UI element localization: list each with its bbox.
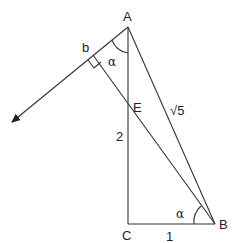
label-angle-b: α: [176, 207, 184, 221]
label-b-foot: b: [82, 40, 89, 55]
label-ec-length: 2: [116, 129, 123, 144]
label-angle-a: α: [108, 55, 116, 69]
arrow-line-through-b: [12, 27, 128, 122]
label-ab-length: √5: [170, 103, 184, 118]
segment-bb: [93, 55, 215, 224]
label-c: C: [122, 228, 131, 243]
label-cb-length: 1: [166, 229, 173, 243]
angle-arc-a: [112, 40, 128, 53]
label-a: A: [123, 9, 132, 24]
angle-arc-b: [194, 206, 201, 224]
geometry-diagram: A b E C B √5 2 1 α α: [0, 0, 233, 243]
segment-ab: [128, 27, 215, 224]
label-b: B: [219, 217, 228, 232]
right-angle-marker: [88, 60, 101, 68]
label-e: E: [133, 100, 142, 115]
